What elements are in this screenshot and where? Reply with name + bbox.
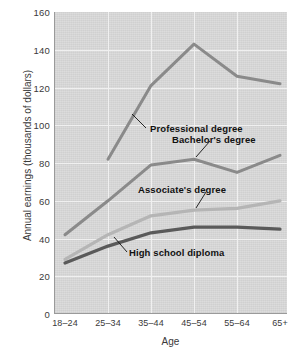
y-tick-20: 20 [2, 271, 50, 282]
plot-area: Professional degree Bachelor's degree As… [54, 12, 287, 314]
chart-figure: 160 140 120 100 80 60 40 20 0 Annual ear… [0, 0, 299, 361]
x-axis-title: Age [54, 336, 287, 347]
x-tick-65-plus: 65+ [255, 318, 299, 328]
plot-axis-border [54, 12, 287, 314]
y-tick-160: 160 [2, 7, 50, 18]
y-axis-title: Annual earnings (thousands of dollars) [22, 41, 33, 271]
